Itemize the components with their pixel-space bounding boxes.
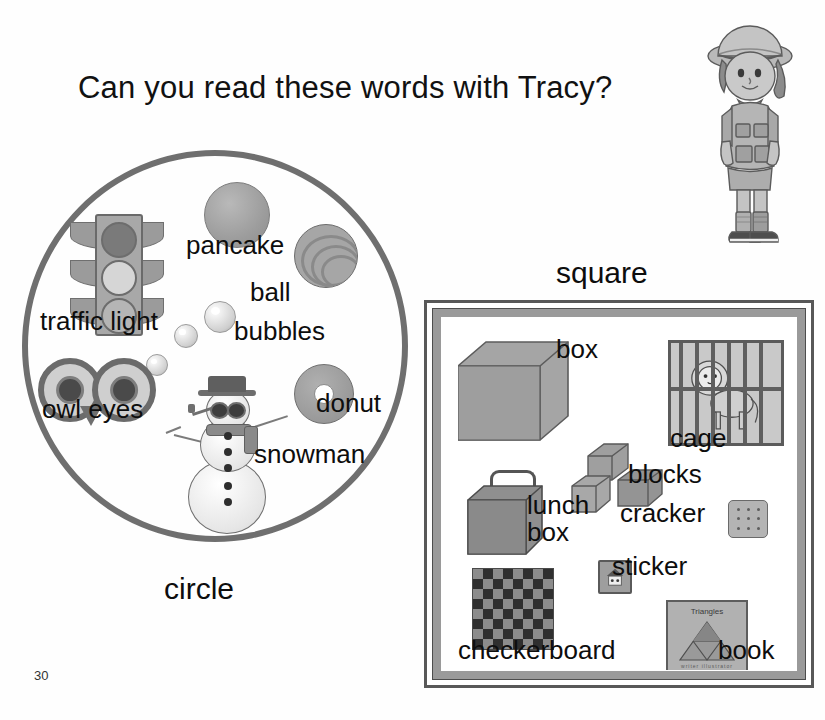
page-number: 30: [34, 668, 48, 683]
word-label-bubbles: bubbles: [234, 318, 325, 345]
circle-shape-group: [18, 146, 418, 566]
word-label-cracker: cracker: [620, 500, 705, 527]
word-label-sticker: sticker: [612, 553, 687, 580]
word-label-checkerboard: checkerboard: [458, 637, 616, 664]
bubble-small-icon: [174, 324, 198, 348]
shape-label-square: square: [556, 256, 648, 290]
word-label-blocks: blocks: [628, 461, 702, 488]
word-label-book: book: [718, 637, 774, 664]
page-title: Can you read these words with Tracy?: [78, 70, 678, 106]
word-label-pancake: pancake: [186, 232, 284, 259]
book-cover-title: Triangles: [668, 607, 746, 616]
word-label-traffic-light: traffic light: [40, 308, 158, 335]
word-label-box: box: [556, 336, 598, 363]
shape-label-circle: circle: [164, 572, 234, 606]
cracker-icon: [728, 500, 768, 538]
word-label-cage: cage: [670, 425, 726, 452]
worksheet-page: Can you read these words with Tracy? 30: [0, 0, 825, 720]
word-label-snowman: snowman: [254, 441, 365, 468]
word-label-owl-eyes: owl eyes: [42, 396, 143, 423]
box-icon: [458, 340, 570, 442]
bubbles-icon: [204, 301, 236, 333]
word-label-ball: ball: [250, 279, 290, 306]
box-svg: [458, 340, 570, 442]
ball-icon: [294, 224, 358, 288]
tracy-svg: [692, 14, 824, 254]
tracy-character-illustration: [692, 14, 824, 254]
square-shape-group: Triangles writer illustrator: [424, 300, 814, 688]
square-inner-area: Triangles writer illustrator: [442, 318, 796, 670]
word-label-donut: donut: [316, 390, 381, 417]
word-label-lunch-box: lunch box: [527, 492, 589, 546]
